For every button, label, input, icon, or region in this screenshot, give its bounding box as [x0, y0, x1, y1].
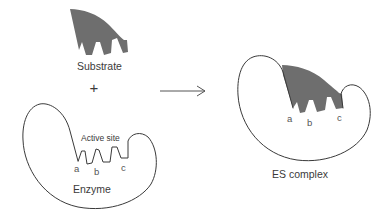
site-letter-a: a: [74, 163, 80, 174]
site-letter-c: c: [121, 162, 126, 173]
complex-site-letter-b: b: [307, 117, 312, 128]
enzyme-substrate-diagram: Substrate + Active site a b c Enzyme a b…: [0, 0, 387, 221]
site-letter-b: b: [94, 166, 99, 177]
substrate-shape: [70, 9, 128, 55]
plus-sign: +: [90, 79, 99, 96]
complex-site-letter-c: c: [337, 112, 342, 123]
enzyme-label: Enzyme: [73, 183, 111, 195]
substrate-label: Substrate: [77, 60, 122, 72]
complex-site-letter-a: a: [287, 113, 293, 124]
bound-substrate-shape: [282, 65, 343, 113]
active-site-label: Active site: [81, 133, 120, 143]
es-complex-label: ES complex: [272, 168, 329, 180]
reaction-arrow: [160, 86, 205, 96]
